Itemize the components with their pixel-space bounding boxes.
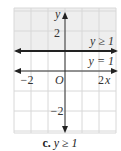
y-axis-label: y <box>54 7 61 21</box>
x-tick-label: −2 <box>21 73 34 87</box>
x-tick-label: 2 <box>98 73 104 87</box>
origin-label: O <box>55 73 64 87</box>
caption-text: y ≥ 1 <box>53 136 78 150</box>
figure-caption: c. y ≥ 1 <box>42 136 77 150</box>
inequality-graph: yxO−222−2y ≥ 1y = 1c. y ≥ 1 <box>0 0 121 151</box>
y-tick-label: −2 <box>51 104 64 118</box>
arrow-right-icon <box>111 68 118 74</box>
caption-letter: c. <box>42 136 53 150</box>
y-tick-label: 2 <box>54 26 60 40</box>
x-axis-label: x <box>104 73 111 87</box>
equation-annotation: y = 1 <box>88 54 114 68</box>
inequality-annotation: y ≥ 1 <box>89 34 114 48</box>
arrow-down-icon <box>62 126 68 133</box>
